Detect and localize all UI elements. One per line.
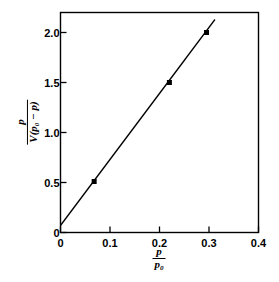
y-axis-label-fraction: p V(p0 − p) bbox=[15, 99, 39, 144]
x-axis-label-fraction: p p0 bbox=[153, 246, 166, 270]
x-axis-label-denominator-subscript: 0 bbox=[160, 264, 164, 272]
y-tick-label-1: 0.5 bbox=[40, 177, 60, 188]
scatter-chart bbox=[0, 0, 279, 282]
y-axis-label: p V(p0 − p) bbox=[15, 99, 39, 144]
y-tick-label-4: 2.0 bbox=[40, 27, 60, 38]
x-axis-label: p p0 bbox=[153, 246, 166, 270]
data-point-0 bbox=[92, 179, 97, 184]
x-tick-label-3: 0.3 bbox=[201, 238, 216, 249]
y-axis-label-numerator: p bbox=[15, 99, 27, 144]
y-axis-label-denominator: V(p0 − p) bbox=[27, 99, 40, 144]
chart-background bbox=[0, 0, 279, 282]
y-axis-label-denominator-subscript: 0 bbox=[33, 123, 41, 127]
data-point-1 bbox=[167, 80, 172, 85]
x-tick-label-0: 0 bbox=[57, 238, 63, 249]
x-axis-label-numerator: p bbox=[153, 246, 166, 258]
y-tick-label-2: 1.0 bbox=[40, 127, 60, 138]
x-tick-label-1: 0.1 bbox=[102, 238, 117, 249]
x-axis-label-denominator-base: p bbox=[155, 258, 161, 270]
y-axis-label-denominator-suffix: − p) bbox=[27, 101, 39, 122]
y-tick-label-0: 0 bbox=[40, 227, 60, 238]
y-tick-label-3: 1.5 bbox=[40, 77, 60, 88]
y-axis-label-denominator-prefix: V(p bbox=[27, 126, 39, 143]
x-axis-label-denominator: p0 bbox=[153, 258, 166, 271]
data-point-2 bbox=[204, 30, 209, 35]
x-tick-label-4: 0.4 bbox=[251, 238, 266, 249]
